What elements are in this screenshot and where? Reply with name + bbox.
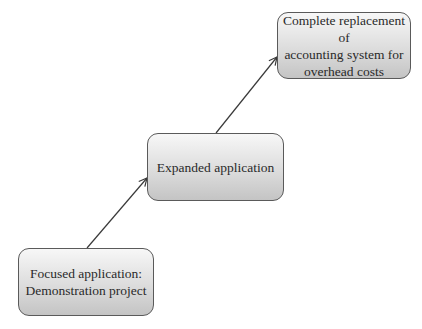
node-label: Focused application: Demonstration proje… <box>25 265 146 299</box>
node-expanded-application: Expanded application <box>147 133 284 201</box>
arrow-expanded-to-complete <box>216 57 277 133</box>
node-focused-application: Focused application: Demonstration proje… <box>18 248 154 316</box>
node-complete-replacement: Complete replacement of accounting syste… <box>277 12 411 79</box>
node-label: Expanded application <box>157 159 274 176</box>
arrow-focused-to-expanded <box>87 178 147 248</box>
node-label: Complete replacement of accounting syste… <box>278 12 410 80</box>
